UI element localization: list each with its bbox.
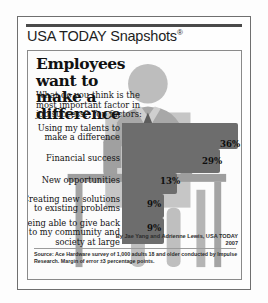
- bar-label-2-line-1: Financial success: [46, 153, 120, 163]
- headline-line-1: Employees want to: [36, 54, 125, 90]
- bar-label-4: Creating new solutions to existing probl…: [27, 195, 120, 214]
- bar-label-4-line-2: to existing problems: [34, 203, 120, 213]
- chart-question: What do you think is the most important …: [36, 91, 152, 120]
- masthead-title: USA TODAY Snapshots®: [27, 28, 237, 48]
- bar-label-1-line-2: make a difference: [44, 132, 120, 142]
- byline-year: 2007: [116, 240, 238, 247]
- bar-value-3: 13%: [160, 176, 180, 186]
- source-note: Source: Ace Hardware survey of 1,000 adu…: [34, 251, 238, 264]
- bar-label-3: New opportunities: [27, 176, 120, 185]
- bar-value-1: 36%: [220, 139, 240, 149]
- bar-label-3-line-1: New opportunities: [42, 175, 120, 185]
- byline: By Jae Yang and Adrienne Lewis, USA TODA…: [116, 233, 238, 248]
- masthead-brand: USA TODAY Snapshots: [27, 28, 177, 44]
- bar-label-1: Using my talents to make a difference: [27, 124, 120, 143]
- source-divider: [34, 248, 236, 249]
- bar-label-2: Financial success: [27, 154, 120, 163]
- usa-today-snapshot-figure: USA TODAY Snapshots®: [0, 0, 268, 303]
- registered-trademark-icon: ®: [177, 28, 183, 37]
- bar-value-5: 9%: [147, 223, 161, 233]
- bar-value-4: 9%: [147, 199, 161, 209]
- byline-authors: By Jae Yang and Adrienne Lewis, USA TODA…: [116, 233, 238, 239]
- masthead-divider: [26, 24, 242, 27]
- figure-outer-frame: USA TODAY Snapshots®: [17, 16, 251, 290]
- bar-value-2: 29%: [202, 156, 222, 166]
- bar-label-5-line-3: society at large: [55, 237, 120, 247]
- bar-label-5: Being able to give back to my community …: [27, 219, 120, 247]
